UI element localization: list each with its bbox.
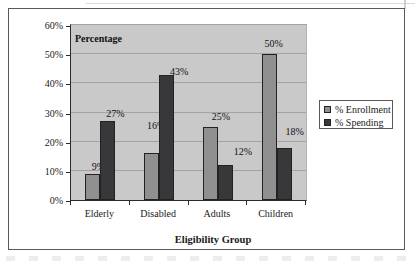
y-axis-tick-label: 40%	[23, 78, 63, 90]
value-label: 27%	[97, 108, 133, 120]
scanned-page: Percentage 9%16%25%50%27%43%12%18% 0%10%…	[0, 0, 415, 262]
bar--spending-elderly	[100, 121, 115, 200]
category-label-children: Children	[246, 208, 305, 220]
value-label: 43%	[161, 66, 197, 78]
y-axis-title: Percentage	[75, 33, 122, 44]
legend-swatch-icon	[324, 106, 331, 113]
bar--spending-children	[277, 148, 292, 201]
value-label: 25%	[203, 111, 239, 123]
plot-area: Percentage 9%16%25%50%27%43%12%18%	[70, 24, 307, 201]
x-axis-tick	[188, 201, 189, 205]
y-axis-tick-label: 10%	[23, 166, 63, 178]
x-axis-tick	[246, 201, 247, 205]
y-axis-tick-label: 30%	[23, 108, 63, 120]
value-label: 18%	[277, 126, 313, 138]
legend: % Enrollment% Spending	[319, 100, 393, 129]
y-axis-tick	[66, 55, 70, 56]
legend-swatch-icon	[324, 119, 331, 126]
chart-frame: Percentage 9%16%25%50%27%43%12%18% 0%10%…	[8, 8, 405, 250]
y-axis-tick	[66, 84, 70, 85]
value-label: 12%	[225, 146, 261, 158]
x-axis-tick	[70, 201, 71, 205]
bar--enrollment-children	[262, 54, 277, 200]
bar--enrollment-disabled	[144, 153, 159, 200]
y-axis-tick-label: 0%	[23, 195, 63, 207]
y-axis-tick	[66, 26, 70, 27]
bar--spending-adults	[218, 165, 233, 200]
legend-label: % Enrollment	[335, 104, 391, 116]
category-label-adults: Adults	[188, 208, 247, 220]
category-label-disabled: Disabled	[129, 208, 188, 220]
legend-label: % Spending	[335, 117, 384, 129]
bar--enrollment-elderly	[85, 174, 100, 200]
category-label-elderly: Elderly	[70, 208, 129, 220]
bar--enrollment-adults	[203, 127, 218, 200]
y-axis-tick-label: 20%	[23, 137, 63, 149]
scan-artifact-smudge	[6, 256, 415, 261]
y-axis-tick-label: 60%	[23, 20, 63, 32]
y-axis-tick	[66, 172, 70, 173]
legend-item: % Enrollment	[324, 103, 392, 116]
x-axis-tick	[305, 201, 306, 205]
legend-item: % Spending	[324, 116, 392, 129]
x-axis-title: Eligibility Group	[143, 234, 283, 245]
y-axis-tick	[66, 143, 70, 144]
value-label: 50%	[256, 38, 292, 50]
x-axis-tick	[129, 201, 130, 205]
y-axis-tick-label: 50%	[23, 49, 63, 61]
scan-artifact-line	[86, 3, 415, 4]
y-axis-tick	[66, 114, 70, 115]
bar--spending-disabled	[159, 75, 174, 200]
